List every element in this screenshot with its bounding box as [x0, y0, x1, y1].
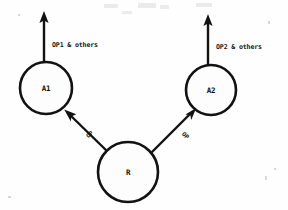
diagram-canvas: A1 A2 R OP OP OP1 & others OP2 & others: [0, 0, 288, 210]
a1-output-label: OP1 & others: [52, 41, 98, 49]
a1-output-arrow: [39, 11, 48, 62]
node-a2-label: A2: [207, 86, 215, 95]
node-a2[interactable]: A2: [186, 65, 236, 115]
edge-r-to-a1: [64, 109, 108, 152]
a2-output-arrow: [203, 14, 212, 65]
node-r[interactable]: R: [98, 142, 158, 202]
node-a1[interactable]: A1: [20, 62, 72, 114]
edge-r-to-a2: [151, 108, 196, 153]
node-a1-label: A1: [42, 84, 51, 93]
a2-output-label: OP2 & others: [216, 43, 262, 51]
scanned-diagram-page: A1 A2 R OP OP OP1 & others OP2 & others: [0, 0, 288, 210]
edge-r-to-a2-label: OP: [181, 130, 191, 140]
